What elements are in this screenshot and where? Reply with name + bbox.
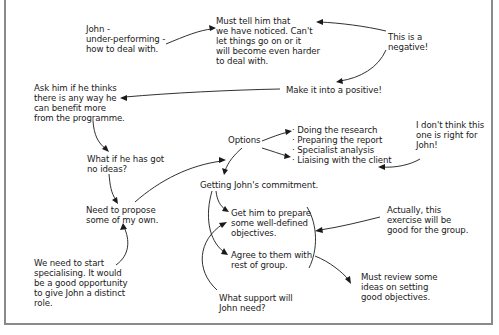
note-prepare-objectives: Get him to prepare some well-defined obj… — [231, 208, 311, 238]
note-john-under-performing: John - under-performing - how to deal wi… — [86, 24, 165, 54]
note-this-is-negative: This is a negative! — [388, 32, 428, 52]
note-review-ideas: Must review some ideas on setting good o… — [361, 272, 437, 302]
note-options: Options — [228, 135, 260, 145]
note-not-right-for-john: I don't think this one is right for John… — [416, 120, 484, 150]
note-agree-with-group: Agree to them with rest of group. — [231, 250, 312, 270]
note-no-ideas: What if he has got no ideas? — [87, 154, 164, 174]
note-ask-him: Ask him if he thinks there is any way he… — [34, 83, 125, 123]
note-must-tell-him: Must tell him that we have noticed. Can'… — [216, 16, 320, 66]
note-good-for-group: Actually, this exercise will be good for… — [387, 205, 468, 235]
note-specialising: We need to start specialising. It would … — [34, 258, 128, 308]
option-item: · Preparing the report — [292, 135, 392, 145]
options-list: · Doing the research · Preparing the rep… — [292, 125, 392, 165]
option-item: · Doing the research — [292, 125, 392, 135]
option-item: · Liaising with the client — [292, 155, 392, 165]
note-propose-own: Need to propose some of my own. — [86, 205, 158, 225]
note-getting-commitment: Getting John's commitment. — [200, 180, 318, 190]
note-make-positive: Make it into a positive! — [286, 85, 382, 95]
note-what-support: What support will John need? — [219, 293, 293, 313]
option-item: · Specialist analysis — [292, 145, 392, 155]
